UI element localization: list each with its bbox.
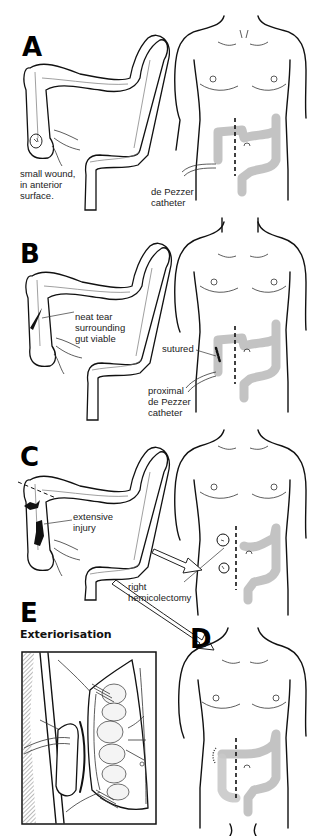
torso-illustration-d-icon xyxy=(0,0,328,836)
